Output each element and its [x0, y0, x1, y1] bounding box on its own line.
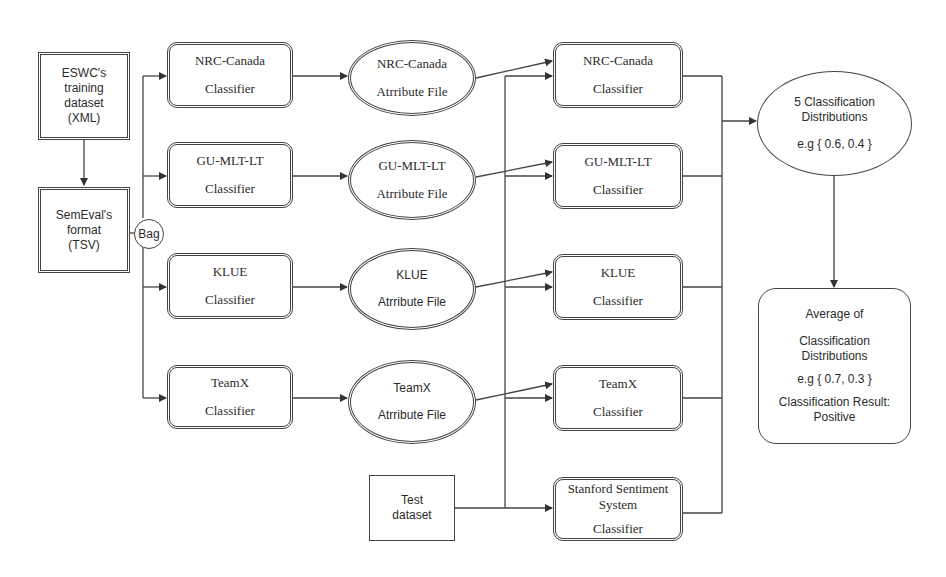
classifier-sub: Classifier	[593, 81, 643, 97]
classifier-sub: Classifier	[205, 403, 255, 419]
classification-distributions-node: 5 Classification Distributions e.g { 0.6…	[757, 71, 912, 176]
test-classifier-teamx: TeamX Classifier	[553, 365, 683, 431]
attribute-sub: Atrribute File	[378, 295, 446, 310]
classifier-name-line-1: Stanford Sentiment	[568, 481, 669, 497]
test-dataset-box: Test dataset	[369, 475, 455, 541]
classification-result-value: Positive	[813, 410, 855, 425]
attribute-name: TeamX	[393, 381, 430, 396]
classifier-sub: Classifier	[593, 404, 643, 420]
semeval-format-box: SemEval's format (TSV)	[38, 187, 130, 273]
classifier-name: GU-MLT-LT	[584, 154, 651, 170]
eswc-training-dataset-box: ESWC's training dataset (XML)	[38, 52, 130, 140]
classifier-name: NRC-Canada	[583, 53, 653, 69]
classifier-sub: Classifier	[205, 292, 255, 308]
train-classifier-gu-mlt-lt: GU-MLT-LT Classifier	[167, 142, 293, 208]
test-classifier-stanford-sentiment: Stanford Sentiment System Classifier	[553, 477, 683, 541]
average-line-1: Classification	[799, 334, 870, 349]
test-classifier-klue: KLUE Classifier	[553, 254, 683, 320]
train-classifier-teamx: TeamX Classifier	[167, 365, 293, 429]
average-distributions-node: Average of Classification Distributions …	[758, 288, 911, 444]
classification-result-label: Classification Result:	[779, 395, 890, 410]
classifier-sub: Classifier	[205, 181, 255, 197]
classifier-name: NRC-Canada	[195, 53, 265, 69]
test-line-2: dataset	[392, 508, 431, 523]
train-classifier-nrc-canada: NRC-Canada Classifier	[167, 42, 293, 108]
bag-node: Bag	[134, 219, 164, 249]
eswc-line-3: dataset	[64, 96, 103, 111]
semeval-line-2: format	[67, 223, 101, 238]
distributions-example: e.g { 0.6, 0.4 }	[797, 137, 872, 152]
classifier-name: GU-MLT-LT	[196, 153, 263, 169]
average-example: e.g { 0.7, 0.3 }	[797, 372, 872, 387]
classifier-name: TeamX	[599, 376, 637, 392]
attribute-sub: Atrribute File	[378, 408, 446, 423]
classifier-name: TeamX	[211, 375, 249, 391]
attribute-file-teamx: TeamX Atrribute File	[348, 360, 476, 444]
bag-label: Bag	[138, 227, 159, 242]
eswc-line-1: ESWC's	[62, 66, 106, 81]
semeval-line-1: SemEval's	[56, 208, 112, 223]
eswc-line-2: training	[64, 81, 103, 96]
eswc-line-4: (XML)	[68, 111, 101, 126]
test-line-1: Test	[401, 493, 423, 508]
attribute-file-klue: KLUE Atrribute File	[348, 248, 476, 330]
classifier-name-line-2: System	[599, 497, 637, 513]
average-title: Average of	[806, 307, 864, 322]
train-classifier-klue: KLUE Classifier	[167, 253, 293, 319]
attribute-name: NRC-Canada	[377, 56, 447, 72]
semeval-line-3: (TSV)	[68, 238, 99, 253]
test-classifier-gu-mlt-lt: GU-MLT-LT Classifier	[553, 143, 683, 209]
attribute-file-nrc-canada: NRC-Canada Atrribute File	[348, 40, 476, 116]
attribute-file-gu-mlt-lt: GU-MLT-LT Atrribute File	[348, 140, 476, 220]
classifier-name: KLUE	[213, 264, 248, 280]
average-line-2: Distributions	[801, 349, 867, 364]
test-classifier-nrc-canada: NRC-Canada Classifier	[553, 42, 683, 108]
classifier-sub: Classifier	[593, 293, 643, 309]
attribute-sub: Atrribute File	[376, 186, 447, 202]
classifier-sub: Classifier	[205, 81, 255, 97]
classifier-name: KLUE	[601, 265, 636, 281]
distributions-line-2: Distributions	[801, 110, 867, 125]
attribute-sub: Atrribute File	[376, 84, 447, 100]
ensemble-sentiment-diagram: ESWC's training dataset (XML) SemEval's …	[0, 0, 946, 577]
classifier-sub: Classifier	[593, 521, 643, 537]
attribute-name: GU-MLT-LT	[378, 158, 445, 174]
attribute-name: KLUE	[396, 268, 427, 283]
distributions-line-1: 5 Classification	[794, 95, 875, 110]
classifier-sub: Classifier	[593, 182, 643, 198]
